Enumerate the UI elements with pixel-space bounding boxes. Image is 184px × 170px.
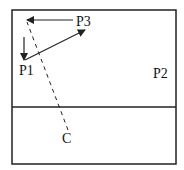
arrow-p1-to-p3-icon	[25, 30, 85, 60]
court-diagram: P3 P1 P2 C	[0, 0, 184, 170]
label-p2: P2	[153, 66, 168, 81]
court-outline	[12, 10, 176, 164]
label-p1: P1	[19, 63, 34, 78]
label-c: C	[62, 131, 71, 146]
label-p3: P3	[76, 14, 91, 29]
